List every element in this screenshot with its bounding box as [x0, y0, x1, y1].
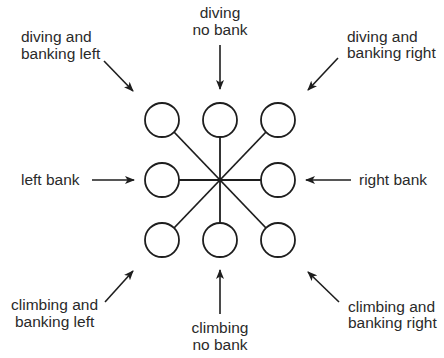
label-line: diving and	[347, 28, 418, 45]
label-line: banking left	[15, 313, 95, 330]
circle-right	[261, 163, 295, 197]
circle-bottom-left	[145, 223, 179, 257]
label-left: left bank	[21, 171, 80, 188]
label-line: no bank	[192, 21, 247, 38]
arrow-bottom-left	[105, 271, 133, 302]
label-line: climbing and	[348, 298, 435, 315]
label-bottom: climbing no bank	[192, 319, 249, 353]
label-line: banking right	[348, 314, 437, 331]
label-line: diving and	[21, 28, 92, 45]
label-top-left: diving and banking left	[21, 28, 101, 62]
label-line: banking right	[347, 44, 436, 61]
circle-left	[145, 163, 179, 197]
circle-bottom	[203, 223, 237, 257]
label-line: diving	[200, 4, 241, 21]
label-line: right bank	[359, 171, 427, 188]
arrow-bottom-right	[308, 272, 339, 302]
spoke-bottom-left	[174, 180, 220, 228]
label-line: climbing	[192, 319, 249, 336]
label-bottom-right: climbing and banking right	[348, 298, 437, 331]
label-line: no bank	[192, 336, 247, 353]
center-hub	[218, 178, 222, 182]
stick-position-diagram: diving and banking left diving no bank d…	[0, 0, 444, 358]
spoke-bottom-right	[220, 180, 266, 228]
label-top-right: diving and banking right	[347, 28, 436, 61]
label-bottom-left: climbing and banking left	[11, 296, 98, 330]
spokes	[174, 132, 266, 228]
arrow-top-right	[308, 58, 338, 90]
arrow-top-left	[104, 61, 133, 91]
circle-top	[203, 103, 237, 137]
label-top: diving no bank	[192, 4, 247, 38]
circle-bottom-right	[261, 223, 295, 257]
spoke-top-right	[220, 132, 266, 180]
circle-top-right	[261, 103, 295, 137]
spoke-top-left	[174, 132, 220, 180]
label-line: climbing and	[11, 296, 98, 313]
label-right: right bank	[359, 171, 427, 188]
circle-top-left	[145, 103, 179, 137]
label-line: banking left	[21, 45, 101, 62]
label-line: left bank	[21, 171, 80, 188]
